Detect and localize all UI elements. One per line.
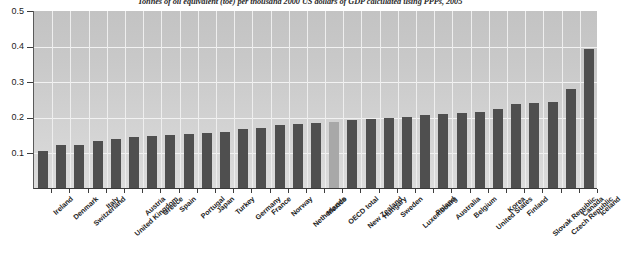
x-tick-mark [524, 189, 525, 193]
x-tick-mark [270, 189, 271, 193]
bar [438, 114, 448, 188]
gridline-vertical [380, 11, 381, 188]
y-tick-label: 0.5 [0, 7, 24, 16]
gridline-vertical [216, 11, 217, 188]
x-tick-mark [360, 189, 361, 193]
x-tick-mark [542, 189, 543, 193]
gridline-vertical [89, 11, 90, 188]
bar [511, 104, 521, 188]
x-tick-mark [197, 189, 198, 193]
gridline-vertical [234, 11, 235, 188]
x-tick-mark [142, 189, 143, 193]
x-tick-mark [179, 189, 180, 193]
gridline-vertical [525, 11, 526, 188]
bar [366, 119, 376, 188]
gridline-vertical [52, 11, 53, 188]
gridline-vertical [307, 11, 308, 188]
x-tick-mark [306, 189, 307, 193]
bar [93, 141, 103, 188]
gridline-vertical [434, 11, 435, 188]
bar [402, 117, 412, 188]
gridline-vertical [471, 11, 472, 188]
y-tick-label: 0.2 [0, 113, 24, 122]
bar [584, 49, 594, 188]
gridline-vertical [489, 11, 490, 188]
gridline-vertical [543, 11, 544, 188]
x-tick-mark [88, 189, 89, 193]
bar [38, 151, 48, 188]
x-tick-mark [451, 189, 452, 193]
bar [238, 129, 248, 188]
gridline-vertical [271, 11, 272, 188]
x-tick-label: Turkey [234, 195, 256, 216]
x-tick-mark [397, 189, 398, 193]
gridline-vertical [416, 11, 417, 188]
x-tick-mark [124, 189, 125, 193]
bar [74, 145, 84, 188]
plot-area [33, 11, 597, 189]
x-tick-mark [488, 189, 489, 193]
x-tick-label: Norway [289, 195, 314, 218]
chart-title: Tonnes of oil equivalent (toe) per thous… [0, 0, 600, 7]
gridline-vertical [252, 11, 253, 188]
x-tick-mark [415, 189, 416, 193]
x-tick-mark [470, 189, 471, 193]
x-tick-mark [379, 189, 380, 193]
gridline-horizontal [34, 82, 597, 83]
gridline-vertical [562, 11, 563, 188]
x-tick-mark [233, 189, 234, 193]
gridline-vertical [452, 11, 453, 188]
bar [129, 137, 139, 188]
gridline-vertical [125, 11, 126, 188]
gridline-vertical [398, 11, 399, 188]
bar [493, 109, 503, 188]
x-tick-mark [324, 189, 325, 193]
bar [220, 132, 230, 188]
gridline-vertical [107, 11, 108, 188]
bar [457, 113, 467, 188]
y-tick-label: 0.4 [0, 42, 24, 51]
gridline-horizontal [34, 47, 597, 48]
x-tick-mark [51, 189, 52, 193]
gridline-vertical [343, 11, 344, 188]
bar [311, 123, 321, 189]
x-tick-label: Mexico [325, 195, 348, 217]
gridline-vertical [198, 11, 199, 188]
bar [347, 120, 357, 188]
bar [548, 102, 558, 189]
bar [147, 136, 157, 188]
bar [293, 124, 303, 188]
bar [529, 103, 539, 188]
bar [384, 118, 394, 188]
bar [184, 134, 194, 188]
x-tick-mark [561, 189, 562, 193]
gridline-vertical [70, 11, 71, 188]
bar [566, 89, 576, 188]
gridline-vertical [161, 11, 162, 188]
gridline-vertical [180, 11, 181, 188]
gridline-vertical [507, 11, 508, 188]
y-tick-label: 0.1 [0, 149, 24, 158]
bar [475, 112, 485, 188]
gridline-vertical [325, 11, 326, 188]
gridline-vertical [580, 11, 581, 188]
y-tick-label: 0.3 [0, 78, 24, 87]
bar [56, 145, 66, 188]
gridline-vertical [289, 11, 290, 188]
bar [329, 122, 339, 188]
x-tick-mark [597, 189, 598, 193]
bar [256, 128, 266, 188]
x-tick-mark [288, 189, 289, 193]
bar [165, 135, 175, 188]
x-tick-mark [433, 189, 434, 193]
gridline-vertical [361, 11, 362, 188]
bar [111, 139, 121, 188]
x-tick-mark [160, 189, 161, 193]
bar [275, 125, 285, 188]
x-tick-mark [506, 189, 507, 193]
bar [202, 133, 212, 188]
x-tick-mark [342, 189, 343, 193]
x-tick-mark [106, 189, 107, 193]
gridline-vertical [143, 11, 144, 188]
